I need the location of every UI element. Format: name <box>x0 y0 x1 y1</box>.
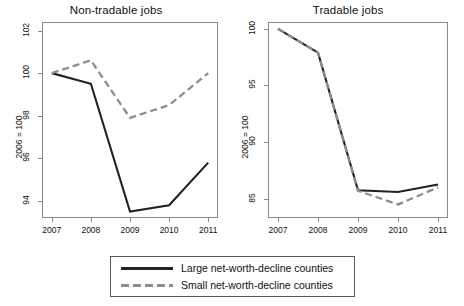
series-line-large <box>278 29 438 192</box>
legend-item-large: Large net-worth-decline counties <box>121 262 333 274</box>
series-line-large <box>52 73 208 211</box>
series-line-small <box>278 29 438 205</box>
legend-swatch-dashed-line <box>121 280 173 290</box>
series-line-small <box>52 60 208 118</box>
figure-two-panel-line-charts: Non-tradable jobs 9496981001022007200820… <box>0 0 464 306</box>
legend-label-large: Large net-worth-decline counties <box>181 262 333 274</box>
legend-swatch-solid-line <box>121 263 173 273</box>
legend-label-small: Small net-worth-decline counties <box>181 279 333 291</box>
legend: Large net-worth-decline counties Small n… <box>110 256 355 297</box>
legend-item-small: Small net-worth-decline counties <box>121 279 333 291</box>
